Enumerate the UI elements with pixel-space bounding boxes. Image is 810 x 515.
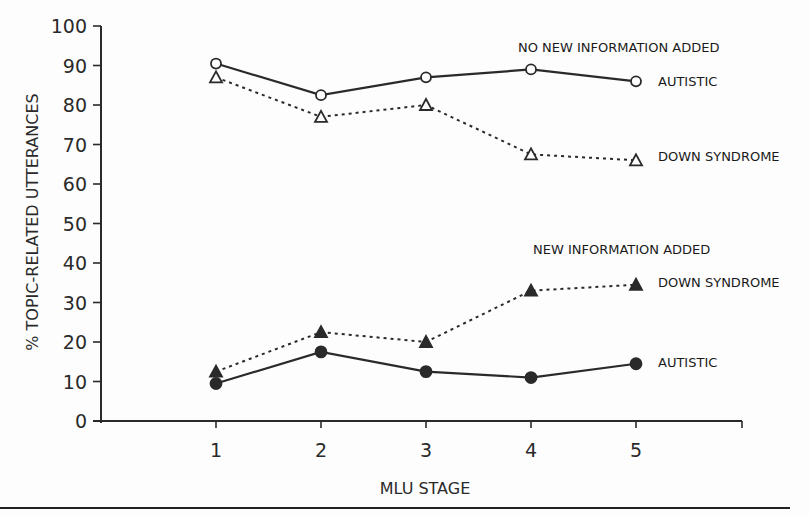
y-tick-label: 0 xyxy=(75,410,87,432)
series-label-autistic-new: AUTISTIC xyxy=(658,355,717,370)
x-axis: 12345 xyxy=(93,421,742,461)
x-tick-label: 2 xyxy=(315,439,327,461)
y-tick-label: 20 xyxy=(63,331,87,353)
filled-triangle-marker-icon xyxy=(420,336,432,347)
y-tick-label: 60 xyxy=(63,173,87,195)
open-triangle-marker-icon xyxy=(315,111,327,122)
series-label-autistic-no-new: AUTISTIC xyxy=(658,74,717,89)
y-axis-title: % TOPIC-RELATED UTTERANCES xyxy=(23,93,42,350)
series-label-down-new: DOWN SYNDROME xyxy=(658,275,780,290)
series-line xyxy=(216,285,636,372)
x-tick-label: 1 xyxy=(210,439,222,461)
filled-circle-marker-icon xyxy=(631,358,642,369)
filled-circle-marker-icon xyxy=(211,378,222,389)
x-tick-label: 4 xyxy=(525,439,537,461)
y-tick-label: 50 xyxy=(63,213,87,235)
open-circle-marker-icon xyxy=(316,90,326,100)
y-tick-label: 30 xyxy=(63,292,87,314)
y-tick-label: 10 xyxy=(63,371,87,393)
annotations: NO NEW INFORMATION ADDED AUTISTIC DOWN S… xyxy=(518,40,780,370)
y-axis: 0102030405060708090100 xyxy=(51,15,101,432)
y-tick-label: 80 xyxy=(63,94,87,116)
series-line xyxy=(216,77,636,160)
line-chart: 0102030405060708090100 12345 % TOPIC-REL… xyxy=(0,0,810,515)
group-label-no-new-info: NO NEW INFORMATION ADDED xyxy=(518,40,719,55)
y-tick-label: 100 xyxy=(51,15,87,37)
open-circle-marker-icon xyxy=(211,59,221,69)
group-label-new-info: NEW INFORMATION ADDED xyxy=(533,242,710,257)
open-circle-marker-icon xyxy=(526,64,536,74)
filled-circle-marker-icon xyxy=(316,346,327,357)
series-1 xyxy=(210,71,642,165)
y-tick-label: 40 xyxy=(63,252,87,274)
open-triangle-marker-icon xyxy=(420,99,432,110)
bottom-rule xyxy=(0,507,790,509)
series-3 xyxy=(211,346,642,389)
x-tick-label: 3 xyxy=(420,439,432,461)
filled-triangle-marker-icon xyxy=(210,366,222,377)
series-label-down-no-new: DOWN SYNDROME xyxy=(658,149,780,164)
filled-circle-marker-icon xyxy=(526,372,537,383)
open-triangle-marker-icon xyxy=(210,71,222,82)
x-tick-label: 5 xyxy=(630,439,642,461)
y-tick-label: 90 xyxy=(63,55,87,77)
series-2 xyxy=(210,279,642,377)
open-circle-marker-icon xyxy=(631,76,641,86)
series-0 xyxy=(211,59,641,101)
plot-area xyxy=(210,59,642,389)
y-tick-label: 70 xyxy=(63,134,87,156)
open-circle-marker-icon xyxy=(421,72,431,82)
filled-circle-marker-icon xyxy=(421,366,432,377)
x-axis-title: MLU STAGE xyxy=(380,479,471,498)
filled-triangle-marker-icon xyxy=(315,326,327,337)
